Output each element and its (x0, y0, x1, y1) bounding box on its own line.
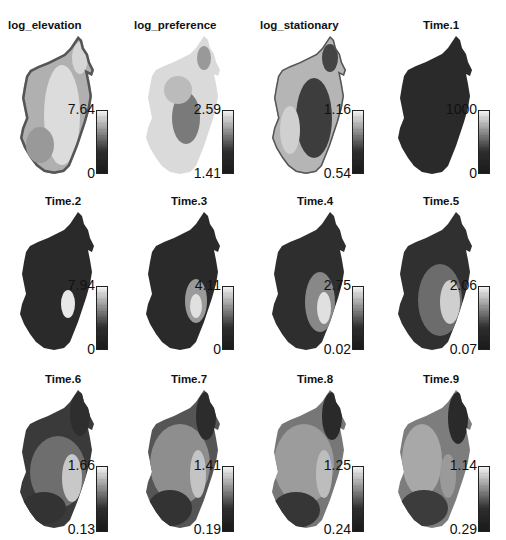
map-panel-time-9: Time.9 1.14 0.29 (378, 364, 504, 540)
colorbar-min-label: 0.02 (311, 342, 351, 356)
colorbar-min-label: 0.54 (311, 166, 351, 180)
map-panel-time-8: Time.8 1.25 0.24 (252, 364, 378, 540)
colorbar-max-label: 1.41 (181, 458, 221, 472)
colorbar-max-label: 7.94 (55, 278, 95, 292)
colorbar (222, 286, 234, 350)
map-panel-time-4: Time.4 2.75 0.02 (252, 186, 378, 364)
colorbar-min-label: 0 (181, 342, 221, 356)
colorbar-max-label: 1.66 (55, 458, 95, 472)
colorbar-min-label: 1.41 (181, 166, 221, 180)
colorbar-min-label: 0.29 (437, 522, 477, 536)
colorbar (352, 466, 364, 532)
colorbar (222, 466, 234, 532)
colorbar-max-label: 1.14 (437, 458, 477, 472)
map-panel-time-7: Time.7 1.41 0.19 (126, 364, 252, 540)
colorbar (96, 286, 108, 350)
map-panel-log-stationary: log_stationary 1.16 0.54 (252, 10, 378, 188)
colorbar-min-label: 0 (55, 342, 95, 356)
colorbar (222, 110, 234, 174)
colorbar (478, 286, 490, 350)
map-panel-log-preference: log_preference 2.59 1.41 (126, 10, 252, 188)
colorbar-min-label: 0.24 (311, 522, 351, 536)
colorbar-min-label: 0.07 (437, 342, 477, 356)
colorbar-max-label: 1000 (437, 102, 477, 116)
map-panel-time-6: Time.6 1.66 0.13 (0, 364, 126, 540)
colorbar-min-label: 0.13 (55, 522, 95, 536)
colorbar-min-label: 0.19 (181, 522, 221, 536)
colorbar-max-label: 1.25 (311, 458, 351, 472)
colorbar (478, 466, 490, 532)
colorbar (352, 110, 364, 174)
map-panel-time-5: Time.5 2.06 0.07 (378, 186, 504, 364)
colorbar-max-label: 4.11 (181, 278, 221, 292)
map-panel-log-elevation: log_elevation 7.64 0 (0, 10, 126, 188)
colorbar-max-label: 1.16 (311, 102, 351, 116)
colorbar (96, 466, 108, 532)
map-panel-time-3: Time.3 4.11 0 (126, 186, 252, 364)
colorbar-min-label: 0 (55, 166, 95, 180)
colorbar (352, 286, 364, 350)
colorbar-min-label: 0 (437, 166, 477, 180)
colorbar-max-label: 7.64 (55, 102, 95, 116)
colorbar-max-label: 2.59 (181, 102, 221, 116)
map-panel-time-1: Time.1 1000 0 (378, 10, 504, 188)
colorbar-max-label: 2.75 (311, 278, 351, 292)
colorbar (478, 110, 490, 174)
map-panel-time-2: Time.2 7.94 0 (0, 186, 126, 364)
colorbar-max-label: 2.06 (437, 278, 477, 292)
colorbar (96, 110, 108, 174)
